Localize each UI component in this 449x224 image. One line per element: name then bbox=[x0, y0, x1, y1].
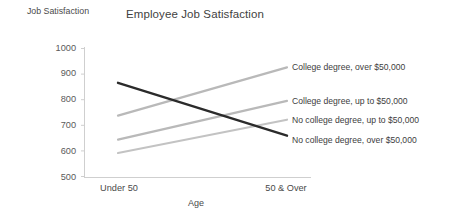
series-line-college-upto-50k bbox=[118, 101, 287, 140]
series-line-nocollege-upto-50k bbox=[118, 120, 287, 153]
chart-container: Employee Job Satisfaction Job Satisfacti… bbox=[0, 0, 449, 224]
series-label-nocollege-over-50k: No college degree, over $50,000 bbox=[292, 135, 417, 145]
y-tick-marks bbox=[81, 49, 84, 177]
series-label-college-over-50k: College degree, over $50,000 bbox=[292, 62, 405, 72]
plot-area bbox=[0, 0, 449, 224]
series-label-college-upto-50k: College degree, up to $50,000 bbox=[292, 96, 408, 106]
series-label-nocollege-upto-50k: No college degree, up to $50,000 bbox=[292, 115, 419, 125]
